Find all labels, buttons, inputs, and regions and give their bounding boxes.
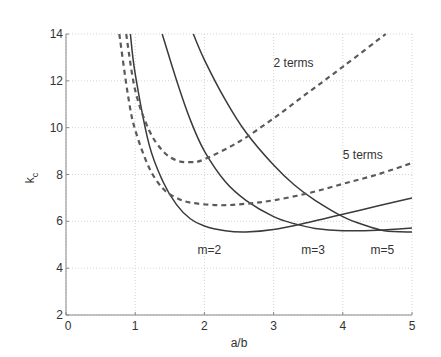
- curve-2-terms: [126, 34, 386, 162]
- x-tick-label: 2: [201, 319, 208, 333]
- y-axis-label-sub: c: [30, 172, 40, 177]
- x-tick-label: 4: [339, 319, 346, 333]
- annotations: 2 terms5 termsm=2m=3m=5: [197, 56, 394, 257]
- y-tick-label: 12: [50, 74, 64, 88]
- x-tick-label: 5: [409, 319, 416, 333]
- annotation-m-2: m=2: [197, 243, 221, 257]
- annotation-2-terms: 2 terms: [274, 56, 314, 70]
- x-tick-label: 1: [132, 319, 139, 333]
- annotation-m-5: m=5: [370, 243, 394, 257]
- curves: [119, 34, 412, 232]
- x-tick-label: 3: [270, 319, 277, 333]
- curve-m-2: [130, 34, 412, 232]
- annotation-m-3: m=3: [301, 243, 325, 257]
- y-tick-label: 10: [50, 121, 64, 135]
- y-tick-label: 14: [50, 27, 64, 41]
- y-tick-label: 8: [56, 168, 63, 182]
- buckling-coefficient-chart: 012345 2468101214 2 terms5 termsm=2m=3m=…: [0, 0, 441, 357]
- grid-lines: [66, 34, 412, 315]
- y-axis-label: kc: [23, 172, 40, 183]
- x-tick-label: 0: [65, 319, 72, 333]
- y-tick-label: 2: [56, 308, 63, 322]
- y-tick-label: 6: [56, 214, 63, 228]
- x-axis-label: a/b: [231, 336, 248, 350]
- curve-5-terms: [119, 34, 412, 205]
- annotation-5-terms: 5 terms: [343, 148, 383, 162]
- y-tick-label: 4: [56, 261, 63, 275]
- svg-text:kc: kc: [23, 172, 40, 183]
